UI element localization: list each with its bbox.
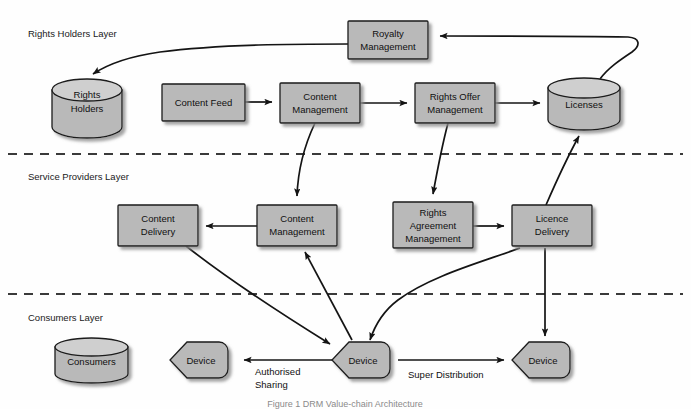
- label-content-management-sp-line2: Management: [269, 226, 325, 237]
- edge-royalty-to-rights-holders: [93, 44, 348, 74]
- label-content-management-rh-line1: Content: [303, 91, 337, 102]
- node-content-management-rights-holders[interactable]: [280, 83, 360, 123]
- label-rights-agreement-line1: Rights: [420, 207, 447, 218]
- label-licence-delivery-line1: Licence: [536, 213, 569, 224]
- label-content-feed: Content Feed: [175, 97, 233, 108]
- label-rights-agreement-line2: Agreement: [410, 220, 457, 231]
- edge-label-authorised-sharing-line1: Authorised: [255, 366, 300, 377]
- diagram-canvas: Rights Holders Layer Service Providers L…: [0, 0, 691, 409]
- edge-rights-offer-to-rights-agreement: [433, 123, 448, 194]
- edge-label-authorised-sharing-line2: Sharing: [255, 379, 288, 390]
- figure-caption: Figure 1 DRM Value-chain Architecture: [267, 399, 422, 409]
- label-licence-delivery-line2: Delivery: [535, 226, 570, 237]
- node-royalty-management[interactable]: [348, 21, 428, 59]
- edge-licenses-to-royalty: [440, 36, 638, 79]
- label-content-management-rh-line2: Management: [292, 104, 348, 115]
- edge-licence-delivery-to-licenses: [546, 136, 579, 205]
- label-device-right: Device: [528, 355, 557, 366]
- label-royalty-line2: Management: [360, 41, 416, 52]
- label-licenses: Licenses: [565, 99, 603, 110]
- label-content-delivery-line1: Content: [141, 213, 175, 224]
- label-consumers: Consumers: [67, 356, 116, 367]
- label-rights-holders-line1: Rights: [74, 89, 101, 100]
- layer-label-service-providers: Service Providers Layer: [28, 171, 129, 182]
- label-rights-holders-line2: Holders: [71, 103, 104, 114]
- label-rights-offer-line2: Management: [427, 104, 483, 115]
- label-royalty-line1: Royalty: [372, 28, 404, 39]
- edge-device-center-to-content-management-sp: [305, 252, 352, 340]
- edge-content-management-rh-to-sp: [297, 123, 315, 196]
- label-device-center: Device: [348, 355, 377, 366]
- layer-label-rights-holders: Rights Holders Layer: [28, 28, 117, 39]
- drm-architecture-diagram: Rights Holders Layer Service Providers L…: [0, 0, 691, 409]
- layer-label-consumers: Consumers Layer: [28, 312, 103, 323]
- label-content-management-sp-line1: Content: [280, 213, 314, 224]
- label-rights-offer-line1: Rights Offer: [430, 91, 481, 102]
- label-rights-agreement-line3: Management: [405, 233, 461, 244]
- label-device-left: Device: [186, 355, 215, 366]
- node-rights-offer-management[interactable]: [415, 83, 495, 123]
- edge-label-super-distribution: Super Distribution: [408, 369, 484, 380]
- label-content-delivery-line2: Delivery: [141, 226, 176, 237]
